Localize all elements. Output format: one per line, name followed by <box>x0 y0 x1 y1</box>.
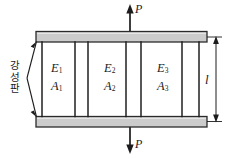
top-force-label: P <box>135 3 142 15</box>
rigid-plate-label: 강 성 판 <box>6 60 24 95</box>
length-dimension <box>207 36 222 123</box>
area-label-3: A3 <box>157 80 168 93</box>
modulus-label-2: E2 <box>104 62 115 75</box>
rigid-plate-leader <box>27 42 37 118</box>
modulus-label-3: E3 <box>157 62 168 75</box>
area-label-1: A1 <box>51 80 62 93</box>
diagram-canvas <box>0 0 238 159</box>
rigid-plate-label-char-1: 강 <box>6 60 24 72</box>
bottom-rigid-plate <box>36 117 207 128</box>
bottom-force-label: P <box>135 138 142 150</box>
bottom-load-arrow <box>126 127 133 154</box>
bar-members <box>42 42 199 117</box>
top-load-arrow <box>126 4 133 32</box>
bar-assembly-diagram: 강 성 판 E1 A1 E2 A2 E3 A3 P P l <box>0 0 238 159</box>
top-rigid-plate <box>36 32 207 43</box>
length-label: l <box>205 73 209 86</box>
modulus-label-1: E1 <box>51 62 62 75</box>
rigid-plate-label-char-3: 판 <box>6 83 24 95</box>
area-label-2: A2 <box>104 80 115 93</box>
